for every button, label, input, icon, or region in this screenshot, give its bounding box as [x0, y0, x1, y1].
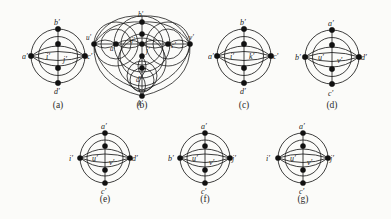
label-k-prime: k′ [249, 52, 255, 61]
label-i-prime: i′ [46, 52, 50, 61]
panel-a-edges [31, 29, 85, 83]
label-a-prime: a′ [299, 122, 305, 131]
panel-f: a′ b′ j′ c′ u′ v′ [168, 120, 242, 196]
node-b-prime [241, 26, 246, 31]
node-i-prime [139, 41, 144, 46]
label-c-prime: c′ [328, 89, 334, 98]
label-d-prime: d′ [54, 87, 60, 96]
label-j-prime: j′ [62, 55, 67, 64]
label-u-prime: u′ [86, 34, 92, 42]
node-c-prime [329, 81, 334, 86]
label-a-prime: a′ [208, 52, 214, 61]
node-mid-lower [102, 167, 107, 172]
node-spine-upper [139, 31, 144, 36]
label-c-prime: c′ [171, 42, 176, 50]
panel-e: a′ i′ d′ c′ u′ v′ [68, 120, 142, 196]
node-spine-lower [139, 65, 144, 70]
label-b-prime: b′ [54, 18, 60, 27]
panel-d-edges [305, 30, 359, 84]
label-v-prime: v′ [307, 158, 313, 167]
label-d-prime: d′ [240, 87, 246, 96]
caption-a: (a) [22, 100, 94, 110]
label-v-prime: v′ [209, 158, 215, 167]
label-d-prime: d′ [136, 76, 142, 84]
figure-sheet: b′ a′ c′ d′ i′ j′ (a) [0, 0, 391, 219]
node-v-prime [187, 41, 192, 46]
label-j-prime: j′ [329, 154, 334, 163]
panel-b: b′ u′ v′ a′ c′ i′ j′ d′ k′ [86, 10, 198, 106]
node-c-prime [202, 180, 207, 185]
node-mid-lower [329, 66, 334, 71]
node-a-prime [28, 53, 33, 58]
label-b-prime: b′ [295, 53, 301, 62]
label-d-prime: d′ [132, 154, 138, 163]
label-v-prime: v′ [189, 34, 194, 42]
caption-b: (b) [86, 100, 198, 110]
label-a-prime: a′ [101, 122, 107, 131]
node-a-prime [202, 130, 207, 135]
label-u-prime: u′ [92, 154, 98, 163]
label-i-prime: i′ [230, 52, 234, 61]
label-i-prime: i′ [131, 37, 135, 45]
node-i-prime [77, 155, 82, 160]
node-a-prime [102, 130, 107, 135]
label-b-prime: b′ [240, 18, 246, 27]
node-c-prime [102, 180, 107, 185]
caption-e: (e) [68, 194, 142, 204]
node-b-prime [55, 26, 60, 31]
label-a-prime: a′ [328, 19, 334, 28]
panel-c: b′ a′ c′ d′ i′ k′ [208, 14, 280, 98]
node-mid-upper [300, 143, 305, 148]
node-b-prime [302, 54, 307, 59]
label-b-prime: b′ [138, 11, 144, 19]
label-u-prime: u′ [192, 154, 198, 163]
node-i-prime [55, 41, 60, 46]
node-b-prime [177, 155, 182, 160]
node-a-prime [214, 53, 219, 58]
label-i-prime: i′ [266, 154, 270, 163]
node-mid-lower [300, 167, 305, 172]
node-d-prime [241, 80, 246, 85]
panel-g-edges [278, 133, 328, 183]
node-mid-upper [329, 42, 334, 47]
panel-a: b′ a′ c′ d′ i′ j′ [22, 14, 94, 98]
panel-g: a′ i′ j′ c′ u′ v′ [266, 120, 340, 196]
label-j-prime: j′ [231, 154, 236, 163]
node-a-prime [329, 27, 334, 32]
label-j-prime: j′ [145, 47, 150, 55]
label-u-prime: u′ [290, 154, 296, 163]
caption-g: (g) [266, 194, 340, 204]
node-mid-upper [241, 41, 246, 46]
label-a-prime: a′ [22, 52, 28, 61]
label-i-prime: i′ [69, 154, 73, 163]
caption-f: (f) [168, 194, 242, 204]
label-c-prime: c′ [273, 52, 279, 61]
label-a-prime: a′ [201, 122, 207, 131]
panel-c-edges [217, 29, 271, 83]
node-a-prime [300, 130, 305, 135]
node-j-prime [139, 53, 144, 58]
panel-f-edges [180, 133, 230, 183]
node-c-prime [165, 41, 170, 46]
node-mid-lower [241, 65, 246, 70]
node-d-prime [55, 80, 60, 85]
label-d-prime: d′ [361, 53, 367, 62]
node-b-prime [139, 19, 144, 24]
caption-d: (d) [294, 100, 370, 110]
node-u-prime [91, 41, 96, 46]
node-mid-upper [102, 143, 107, 148]
node-mid-upper [202, 143, 207, 148]
panel-d: a′ b′ d′ c′ u′ v′ [294, 14, 370, 100]
label-b-prime: b′ [168, 154, 174, 163]
label-v-prime: v′ [337, 56, 343, 65]
label-v-prime: v′ [109, 158, 115, 167]
node-j-prime [55, 65, 60, 70]
panel-e-edges [80, 133, 130, 183]
label-u-prime: u′ [318, 53, 324, 62]
node-mid-lower [202, 167, 207, 172]
node-i-prime [275, 155, 280, 160]
node-c-prime [300, 180, 305, 185]
caption-c: (c) [208, 100, 280, 110]
label-a-prime: a′ [110, 45, 116, 53]
node-k-prime [139, 93, 144, 98]
